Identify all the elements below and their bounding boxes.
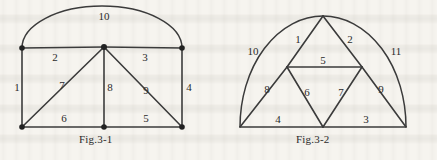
edge-label-5: 5 [320,54,326,66]
figure-3-2-diagram: 1 2 3 4 5 6 7 8 9 10 11 [0,0,437,145]
edge-label-8: 8 [264,83,270,95]
edge-label-7: 7 [338,86,344,98]
edge-label-11: 11 [391,45,402,57]
figure-3-2-caption: Fig.3-2 [296,133,330,145]
edge-2-line [323,16,362,67]
edge-label-2: 2 [347,33,353,45]
edge-label-9: 9 [378,83,384,95]
figure-3-1-caption: Fig.3-1 [79,133,113,145]
edge-label-3: 3 [363,113,369,125]
edge-10-11-arc [240,16,406,127]
edge-label-4: 4 [275,113,281,125]
edge-label-10: 10 [248,45,260,57]
edge-label-6: 6 [304,86,310,98]
edge-label-1: 1 [295,33,301,45]
figure-page: 1 2 3 4 5 6 7 8 9 10 1 2 3 4 5 6 7 [0,0,437,160]
